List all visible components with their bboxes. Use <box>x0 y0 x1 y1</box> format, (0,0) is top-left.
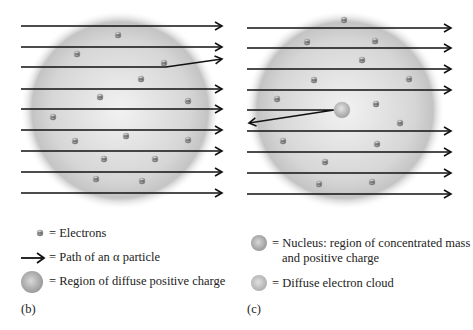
panel-c-label: (c) <box>247 302 261 317</box>
legend-c-icons <box>251 235 267 291</box>
legend-region-label: = Region of diffuse positive charge <box>49 274 225 289</box>
legend-nucleus-label: = Nucleus: region of concentrated mass <box>272 236 470 251</box>
electron-cloud-legend-icon <box>251 275 267 291</box>
legend-path-label: = Path of an α particle <box>49 250 160 265</box>
electron-legend-icon <box>37 230 43 236</box>
legend-electrons-label: = Electrons <box>49 226 106 241</box>
panel-b-label: (b) <box>21 302 36 317</box>
legend-cloud-label: = Diffuse electron cloud <box>272 276 394 291</box>
positive-charge-legend-icon <box>21 271 43 293</box>
nucleus-legend-icon <box>251 235 267 251</box>
nucleus <box>334 102 350 118</box>
panel-c-rutherford-model <box>245 10 451 210</box>
panel-b-thomson-model <box>20 10 222 210</box>
arrow-legend-icon <box>21 253 44 263</box>
legend-b-icons <box>21 230 44 293</box>
legend-nucleus-label-2: and positive charge <box>282 251 379 266</box>
diffuse-positive-charge-cloud <box>20 10 220 210</box>
